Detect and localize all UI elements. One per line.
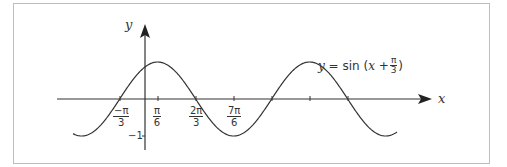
function-annotation: y = sin (x + π3) (318, 56, 403, 75)
x-tick-label-pi-6: π6 (153, 105, 161, 128)
x-tick-label-neg-pi-3: −π3 (113, 105, 129, 128)
plot-area (0, 0, 507, 167)
x-tick-label-2pi-3: 2π3 (189, 105, 203, 128)
x-tick-label-7pi-6: 7π6 (227, 105, 241, 128)
y-tick-label-neg-1: −1 (128, 131, 143, 141)
x-axis-label: x (438, 92, 445, 105)
y-axis-label: y (125, 18, 132, 31)
